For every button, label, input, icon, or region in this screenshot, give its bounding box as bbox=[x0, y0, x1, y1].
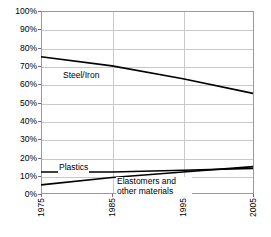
series-annotation-elastomers: Elastomers and other materials bbox=[116, 177, 192, 197]
line-chart: 100% 90% 80% 70% 60% 50% 40% 30% 20% 10%… bbox=[0, 0, 271, 237]
series-lines bbox=[0, 0, 271, 237]
series-annotation-elastomers-line2: other materials bbox=[117, 186, 173, 196]
series-annotation-elastomers-line1: Elastomers and bbox=[117, 176, 176, 186]
series-annotation-plastics: Plastics bbox=[58, 163, 89, 173]
series-annotation-steel-iron: Steel/Iron bbox=[62, 71, 100, 81]
